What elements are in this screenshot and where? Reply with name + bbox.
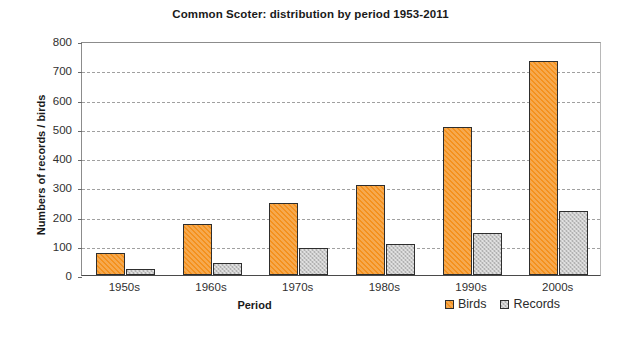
y-axis-title: Numbers of records / birds [35, 45, 47, 285]
bar-records-1950s [126, 269, 155, 275]
gridline [82, 131, 600, 132]
bar-birds-1960s [183, 224, 212, 275]
x-axis-tick-label-1980s: 1980s [369, 281, 400, 293]
legend-entry-records: Records [500, 297, 560, 311]
y-axis-tickmark [78, 102, 82, 103]
legend-swatch-icon-records [500, 300, 509, 309]
bar-records-1960s [213, 263, 242, 275]
bar-records-1980s [386, 244, 415, 275]
bar-records-1990s [473, 233, 502, 275]
plot-area [81, 42, 601, 276]
gridline [82, 102, 600, 103]
y-axis-tickmark [78, 43, 82, 44]
gridline [82, 160, 600, 161]
x-axis-tick-label-1970s: 1970s [282, 281, 313, 293]
y-axis-tickmark [78, 72, 82, 73]
legend-label: Records [513, 297, 560, 311]
gridline [82, 219, 600, 220]
bar-birds-1980s [356, 185, 385, 275]
bar-birds-2000s [529, 61, 558, 275]
gridline [82, 189, 600, 190]
bar-records-2000s [559, 211, 588, 275]
bar-birds-1950s [96, 253, 125, 275]
legend-swatch-icon-birds [445, 300, 454, 309]
chart-container: Common Scoter: distribution by period 19… [0, 0, 621, 337]
x-axis-tick-label-1950s: 1950s [109, 281, 140, 293]
y-axis-tickmark [78, 277, 82, 278]
y-axis-tickmark [78, 248, 82, 249]
chart-title: Common Scoter: distribution by period 19… [0, 8, 621, 20]
x-axis-tick-label-2000s: 2000s [542, 281, 573, 293]
y-axis-tickmark [78, 131, 82, 132]
x-axis-tick-label-1990s: 1990s [455, 281, 486, 293]
x-axis-title: Period [81, 299, 428, 311]
x-axis-tick-label-1960s: 1960s [195, 281, 226, 293]
chart-legend: BirdsRecords [445, 297, 560, 311]
y-axis-tickmark [78, 189, 82, 190]
gridline [82, 72, 600, 73]
bar-records-1970s [299, 248, 328, 275]
y-axis-tickmark [78, 160, 82, 161]
bar-birds-1970s [269, 203, 298, 275]
bar-birds-1990s [443, 127, 472, 275]
legend-label: Birds [458, 297, 486, 311]
y-axis-tickmark [78, 219, 82, 220]
gridline [82, 248, 600, 249]
legend-entry-birds: Birds [445, 297, 486, 311]
